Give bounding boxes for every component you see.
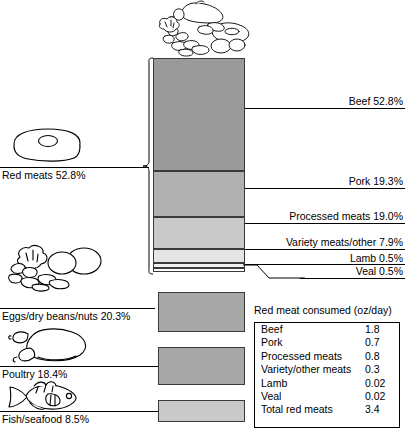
bar-segment-variety-meats[interactable] bbox=[153, 249, 245, 263]
pork-leader-line bbox=[245, 188, 405, 189]
segment-label-variety-meats: Variety meats/other 7.9% bbox=[245, 236, 403, 248]
oz-row-value: 0.02 bbox=[361, 377, 399, 390]
chart-figure: Red meats 52.8% Beef 52.8% Pork 19.3% Pr… bbox=[0, 0, 405, 435]
oz-row-value: 0.7 bbox=[361, 336, 399, 349]
variety-meats-leader-line bbox=[245, 249, 405, 250]
oz-row-name: Beef bbox=[255, 323, 361, 336]
segment-label-pork: Pork 19.3% bbox=[245, 175, 403, 187]
bar-segment-pork[interactable] bbox=[153, 171, 245, 217]
table-row: Pork0.7 bbox=[255, 336, 399, 349]
bar-segment-beef[interactable] bbox=[153, 58, 245, 171]
left-label-red-meats: Red meats 52.8% bbox=[2, 169, 85, 181]
segment-label-beef: Beef 52.8% bbox=[245, 95, 403, 107]
oz-row-value: 0.3 bbox=[361, 363, 399, 376]
oz-row-value: 1.8 bbox=[361, 323, 399, 336]
stacked-bar bbox=[153, 58, 245, 272]
eggs-beans-nuts-icon bbox=[6, 243, 110, 291]
food-assortment-icon bbox=[152, 0, 256, 58]
oz-row-value: 3.4 bbox=[361, 403, 399, 416]
poultry-leader-line bbox=[0, 366, 158, 367]
table-row: Beef1.8 bbox=[255, 323, 399, 336]
table-row: Total red meats3.4 bbox=[255, 403, 399, 416]
oz-table-body: Beef1.8Pork0.7Processed meats0.8Variety/… bbox=[255, 323, 399, 417]
left-label-poultry: Poultry 18.4% bbox=[2, 368, 67, 380]
bar-segment-processed-meats[interactable] bbox=[153, 217, 245, 249]
table-row: Lamb0.02 bbox=[255, 377, 399, 390]
oz-table: Beef1.8Pork0.7Processed meats0.8Variety/… bbox=[254, 322, 400, 428]
segment-label-processed-meats: Processed meats 19.0% bbox=[245, 210, 403, 222]
bar-poultry[interactable] bbox=[158, 347, 245, 385]
oz-row-name: Variety/other meats bbox=[255, 363, 361, 376]
processed-meats-leader-line bbox=[245, 223, 405, 224]
fish-leader-line bbox=[0, 411, 158, 412]
oz-row-value: 0.02 bbox=[361, 390, 399, 403]
eggs-leader-line bbox=[0, 308, 155, 309]
oz-row-name: Veal bbox=[255, 390, 361, 403]
oz-row-name: Pork bbox=[255, 336, 361, 349]
bar-segment-veal[interactable] bbox=[153, 268, 245, 272]
table-row: Variety/other meats0.3 bbox=[255, 363, 399, 376]
steak-icon bbox=[8, 126, 86, 166]
left-label-eggs-beans-nuts: Eggs/dry beans/nuts 20.3% bbox=[2, 310, 130, 322]
table-row: Veal0.02 bbox=[255, 390, 399, 403]
oz-row-value: 0.8 bbox=[361, 350, 399, 363]
bar-fish-seafood[interactable] bbox=[158, 400, 245, 422]
table-row: Processed meats0.8 bbox=[255, 350, 399, 363]
left-label-fish-seafood: Fish/seafood 8.5% bbox=[2, 413, 89, 425]
red-meats-leader-line bbox=[0, 167, 149, 168]
oz-row-name: Total red meats bbox=[255, 403, 361, 416]
poultry-icon bbox=[8, 326, 96, 366]
bar-eggs-beans-nuts[interactable] bbox=[158, 292, 245, 332]
segment-label-veal: Veal 0.5% bbox=[245, 265, 403, 277]
beef-leader-line bbox=[245, 108, 405, 109]
veal-leader-line-extension bbox=[300, 278, 405, 279]
oz-table-title: Red meat consumed (oz/day) bbox=[254, 304, 392, 316]
red-meats-bracket bbox=[141, 56, 155, 276]
oz-row-name: Lamb bbox=[255, 377, 361, 390]
fish-icon bbox=[8, 380, 80, 412]
oz-row-name: Processed meats bbox=[255, 350, 361, 363]
